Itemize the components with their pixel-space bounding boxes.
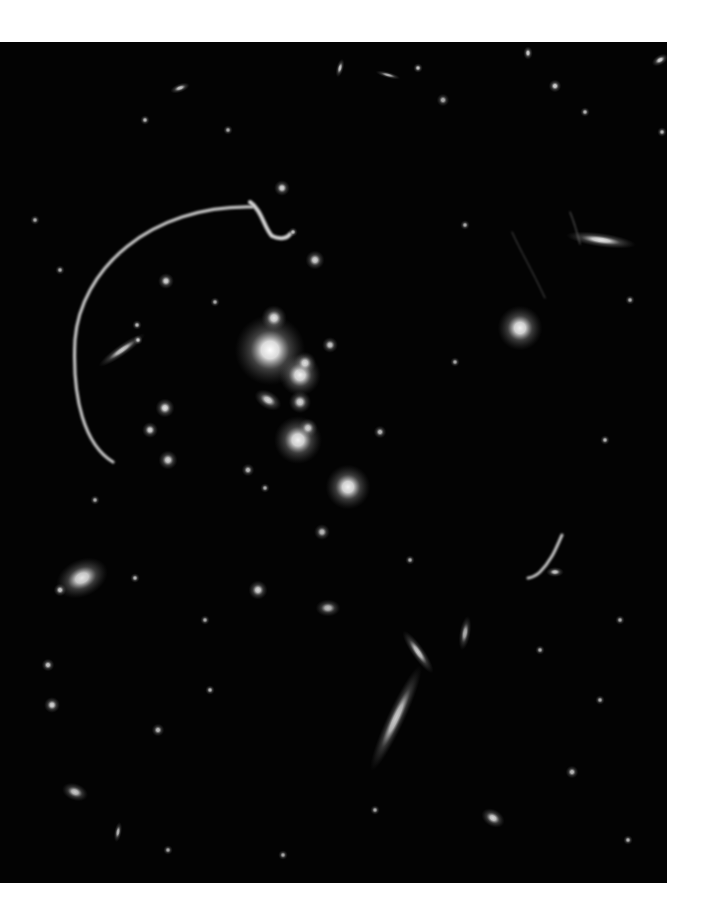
- galaxy: [334, 58, 346, 79]
- galaxy: [413, 63, 423, 73]
- galaxy: [163, 845, 173, 855]
- galaxy: [549, 80, 562, 93]
- galaxy: [623, 835, 633, 845]
- galaxy: [565, 228, 637, 252]
- faint-streak-right: [512, 232, 545, 298]
- galaxy: [54, 584, 67, 597]
- giant-lensing-arc: [75, 207, 252, 462]
- galaxy: [44, 697, 60, 713]
- galaxy: [158, 450, 177, 469]
- galaxy: [59, 779, 90, 804]
- galaxy: [260, 483, 270, 493]
- galaxy: [498, 306, 543, 351]
- galaxy: [248, 580, 267, 599]
- galaxy: [600, 435, 610, 445]
- galaxy: [130, 573, 140, 583]
- galaxy: [112, 821, 123, 843]
- galaxy: [251, 385, 285, 415]
- galaxy: [478, 804, 508, 831]
- galaxy: [90, 495, 100, 505]
- galaxy: [546, 567, 564, 577]
- galaxy: [155, 398, 174, 417]
- galaxies: [30, 46, 667, 860]
- galaxy: [210, 297, 220, 307]
- galaxy: [42, 659, 55, 672]
- galaxy: [375, 69, 401, 82]
- galaxy: [566, 766, 579, 779]
- galaxy: [55, 265, 65, 275]
- galaxy: [50, 550, 115, 607]
- galaxy: [205, 685, 215, 695]
- galaxy: [650, 51, 667, 69]
- galaxy-cluster-photo: [0, 42, 667, 883]
- galaxy: [96, 329, 149, 371]
- galaxy: [535, 645, 545, 655]
- galaxy: [363, 661, 428, 774]
- galaxy: [278, 850, 288, 860]
- star-field: [0, 42, 667, 883]
- galaxy: [460, 220, 470, 230]
- galaxy: [261, 305, 287, 331]
- galaxy: [30, 215, 40, 225]
- galaxy: [437, 94, 450, 107]
- galaxy: [523, 46, 533, 59]
- galaxy: [615, 615, 625, 625]
- galaxy: [158, 273, 174, 289]
- lensing-arcs: [75, 202, 580, 578]
- small-lensing-arc-top: [250, 202, 290, 238]
- galaxy: [326, 465, 371, 510]
- galaxy: [657, 127, 667, 137]
- galaxy: [370, 805, 380, 815]
- galaxy: [200, 615, 210, 625]
- galaxy: [580, 107, 590, 117]
- galaxy: [322, 337, 338, 353]
- galaxy: [223, 125, 233, 135]
- galaxy: [133, 335, 143, 345]
- galaxy: [169, 80, 191, 95]
- galaxy: [450, 357, 460, 367]
- galaxy: [625, 295, 635, 305]
- galaxy: [152, 724, 165, 737]
- galaxy: [294, 352, 316, 374]
- galaxy: [305, 250, 324, 269]
- galaxy: [595, 695, 605, 705]
- galaxy: [142, 422, 158, 438]
- galaxy: [316, 599, 341, 616]
- galaxy: [132, 320, 142, 330]
- galaxy: [374, 426, 387, 439]
- galaxy: [314, 524, 330, 540]
- galaxy: [289, 391, 311, 413]
- galaxy: [274, 180, 290, 196]
- galaxy: [456, 615, 473, 651]
- galaxy: [242, 464, 255, 477]
- galaxy: [288, 227, 298, 237]
- galaxy: [298, 418, 317, 437]
- galaxy: [140, 115, 150, 125]
- galaxy: [405, 555, 415, 565]
